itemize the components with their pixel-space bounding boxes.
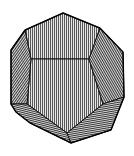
dodecahedron-drawing <box>0 0 134 156</box>
dodecahedron-figure <box>0 0 134 156</box>
face-top <box>25 13 100 59</box>
